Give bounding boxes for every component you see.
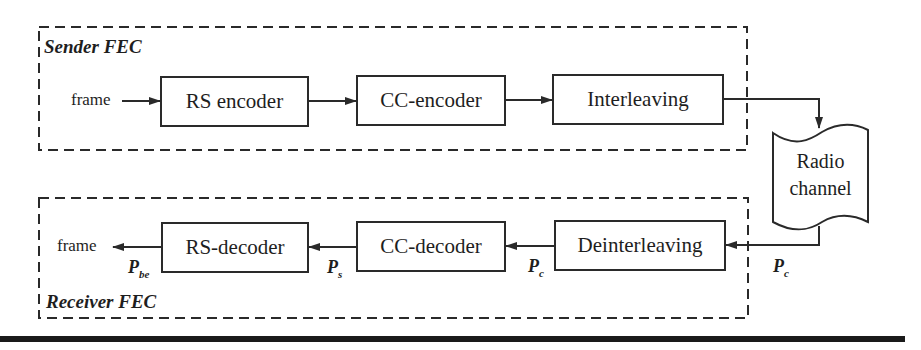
receiver-frame-output-label: frame	[57, 236, 97, 256]
prob-label-pc-inner: Pc	[528, 256, 544, 279]
channel-label-line2: channel	[773, 177, 868, 200]
sender-frame-input-label: frame	[71, 90, 111, 110]
sender-fec-title: Sender FEC	[44, 36, 142, 58]
cc-decoder-label: CC-decoder	[357, 222, 505, 271]
receiver-fec-title: Receiver FEC	[46, 291, 156, 313]
channel-label-line1: Radio	[773, 150, 868, 173]
cc-encoder-label: CC-encoder	[357, 76, 505, 125]
deinterleaving-label: Deinterleaving	[555, 221, 725, 270]
rs-encoder-label: RS encoder	[161, 77, 308, 126]
bottom-rule	[0, 336, 905, 342]
prob-label-pc-channel: Pc	[773, 256, 789, 279]
arrow-interleaving-to-channel	[723, 99, 819, 128]
interleaving-label: Interleaving	[553, 75, 723, 124]
rs-decoder-label: RS-decoder	[162, 223, 308, 272]
prob-label-pbe: Pbe	[128, 257, 149, 280]
prob-label-ps: Ps	[327, 257, 342, 280]
